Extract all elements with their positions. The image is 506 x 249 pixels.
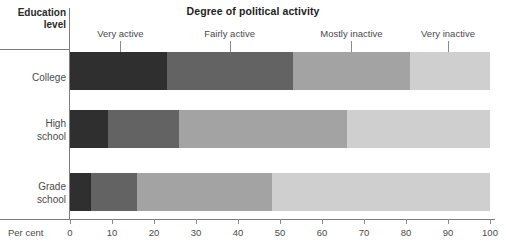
legend-label-1: Very active — [97, 28, 143, 39]
y-axis-title-line1: Education — [0, 7, 66, 19]
bar-segment — [91, 173, 137, 211]
bar-row — [70, 110, 490, 148]
row-label-line1: College — [0, 72, 66, 85]
bar-segment — [347, 110, 490, 148]
x-tick — [322, 219, 323, 224]
x-tick — [406, 219, 407, 224]
x-tick-label: 100 — [482, 227, 498, 238]
legend-label-2: Fairly active — [204, 28, 255, 39]
x-tick — [70, 219, 71, 224]
row-label-3: Gradeschool — [0, 181, 66, 206]
chart-title: Degree of political activity — [0, 5, 506, 17]
x-tick-label: 20 — [149, 227, 160, 238]
bar-segment — [272, 173, 490, 211]
x-tick — [448, 219, 449, 224]
bar-segment — [70, 52, 167, 90]
row-label-2: Highschool — [0, 118, 66, 143]
bar-segment — [410, 52, 490, 90]
bar-segment — [167, 52, 293, 90]
bar-segment — [70, 173, 91, 211]
bar-segment — [108, 110, 179, 148]
x-tick — [112, 219, 113, 224]
row-label-1: College — [0, 72, 66, 85]
x-axis-line — [0, 219, 495, 220]
x-tick-label: 90 — [443, 227, 454, 238]
x-tick — [364, 219, 365, 224]
y-axis-title: Education level — [0, 7, 66, 31]
row-label-line1: High — [0, 118, 66, 131]
x-tick-label: 60 — [317, 227, 328, 238]
bar-segment — [179, 110, 347, 148]
x-tick — [154, 219, 155, 224]
x-tick — [280, 219, 281, 224]
x-tick-label: 40 — [233, 227, 244, 238]
x-tick-label: 10 — [107, 227, 118, 238]
x-tick-label: 80 — [401, 227, 412, 238]
y-axis-title-line2: level — [0, 19, 66, 31]
x-tick — [238, 219, 239, 224]
x-tick-label: 50 — [275, 227, 286, 238]
bar-row — [70, 173, 490, 211]
x-tick — [196, 219, 197, 224]
x-tick-label: 0 — [67, 227, 72, 238]
bar-segment — [70, 110, 108, 148]
row-label-line2: school — [0, 194, 66, 207]
x-tick-label: 70 — [359, 227, 370, 238]
x-tick — [490, 219, 491, 224]
top-rule — [0, 49, 69, 50]
x-tick-label: 30 — [191, 227, 202, 238]
row-label-line2: school — [0, 131, 66, 144]
stacked-bar-chart: Degree of political activity Education l… — [0, 0, 506, 249]
legend-label-4: Very inactive — [421, 28, 475, 39]
bar-segment — [137, 173, 271, 211]
row-label-line1: Grade — [0, 181, 66, 194]
x-axis-caption: Per cent — [8, 227, 43, 238]
bar-segment — [293, 52, 411, 90]
bar-row — [70, 52, 490, 90]
legend-label-3: Mostly inactive — [320, 28, 382, 39]
